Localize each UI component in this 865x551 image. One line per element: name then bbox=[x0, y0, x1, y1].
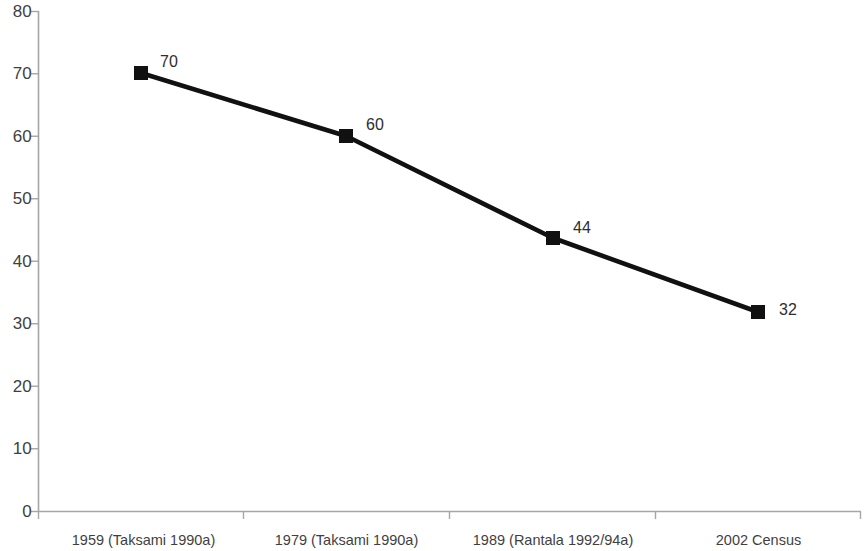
x-axis-category-label: 1989 (Rantala 1992/94a) bbox=[450, 533, 656, 548]
data-point-label: 60 bbox=[366, 117, 384, 133]
data-point-marker bbox=[546, 231, 560, 245]
y-axis-tick-label: 20 bbox=[0, 378, 32, 395]
data-point-label: 32 bbox=[779, 302, 797, 318]
y-axis-tick-label: 80 bbox=[0, 3, 32, 20]
y-axis-tick-label: 0 bbox=[0, 503, 32, 520]
x-axis-category-label: 1959 (Taksami 1990a) bbox=[41, 533, 246, 548]
series-line bbox=[141, 73, 758, 312]
data-point-marker bbox=[339, 129, 353, 143]
data-point-label: 70 bbox=[160, 54, 178, 70]
data-point-label: 44 bbox=[573, 220, 591, 236]
x-axis-category-label: 1979 (Taksami 1990a) bbox=[244, 533, 449, 548]
y-axis-tick-label: 10 bbox=[0, 440, 32, 457]
x-axis-ticks bbox=[39, 512, 861, 520]
data-point-marker bbox=[751, 305, 765, 319]
y-axis-tick-label: 50 bbox=[0, 190, 32, 207]
y-axis-tick-label: 30 bbox=[0, 315, 32, 332]
y-axis-tick-label: 70 bbox=[0, 65, 32, 82]
y-axis-tick-label: 60 bbox=[0, 128, 32, 145]
chart-canvas bbox=[0, 0, 865, 551]
x-axis-category-label: 2002 Census bbox=[656, 533, 861, 548]
data-point-marker bbox=[134, 66, 148, 80]
y-axis-tick-label: 40 bbox=[0, 253, 32, 270]
y-axis-ticks bbox=[31, 12, 39, 512]
line-chart: 80 70 60 50 40 30 20 10 0 1959 (Taksami … bbox=[0, 0, 865, 551]
